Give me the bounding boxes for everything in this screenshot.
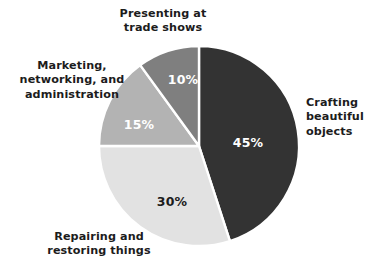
slice-label-crafting-beautiful-objects: Crafting beautiful objects [306, 96, 376, 139]
slice-value-presenting-at-trade-shows: 10% [168, 72, 199, 87]
slice-label-marketing-networking-administration: Marketing, networking, and administratio… [8, 59, 136, 102]
slice-value-crafting-beautiful-objects: 45% [233, 135, 264, 150]
slice-label-repairing-and-restoring-things: Repairing and restoring things [36, 230, 162, 259]
slice-value-repairing-and-restoring-things: 30% [157, 194, 188, 209]
pie-chart-figure: Presenting at trade shows Marketing, net… [0, 0, 378, 276]
slice-value-marketing-networking-administration: 15% [124, 117, 155, 132]
slice-label-presenting-at-trade-shows: Presenting at trade shows [104, 7, 222, 36]
